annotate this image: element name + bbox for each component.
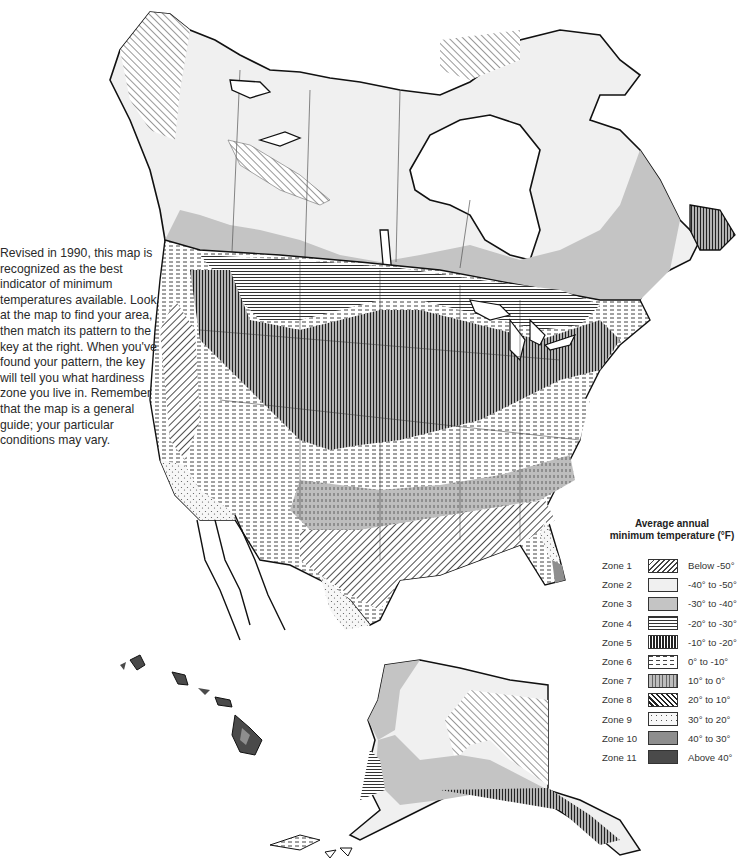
legend-row: Zone 4-20° to -30°: [602, 614, 742, 633]
zone-5-swatch: [648, 635, 678, 649]
zone-10-swatch: [648, 731, 678, 745]
legend-row: Zone 2-40° to -50°: [602, 575, 742, 594]
legend: Average annual minimum temperature (°F) …: [602, 518, 742, 767]
zone-3-swatch: [648, 597, 678, 611]
zone-8-swatch: [648, 693, 678, 707]
zone-9-swatch: [648, 712, 678, 726]
zone-2-swatch: [648, 578, 678, 592]
zone-1-swatch: [648, 559, 678, 573]
zone-7-swatch: [648, 674, 678, 688]
zone-4-swatch: [648, 616, 678, 630]
legend-row: Zone 60° to -10°: [602, 652, 742, 671]
legend-row: Zone 710° to 0°: [602, 671, 742, 690]
zone-6-swatch: [648, 655, 678, 669]
alaska-region: [270, 660, 640, 858]
legend-row: Zone 3-30° to -40°: [602, 594, 742, 613]
legend-title: Average annual minimum temperature (°F): [602, 518, 742, 542]
legend-row: Zone 1040° to 30°: [602, 729, 742, 748]
legend-row: Zone 11Above 40°: [602, 748, 742, 767]
zone-11-swatch: [648, 750, 678, 764]
legend-row: Zone 820° to 10°: [602, 690, 742, 709]
legend-row: Zone 5-10° to -20°: [602, 633, 742, 652]
legend-row: Zone 930° to 20°: [602, 710, 742, 729]
intro-paragraph: Revised in 1990, this map is recognized …: [0, 246, 160, 449]
hawaii-region: [120, 655, 262, 755]
legend-rows: Zone 1Below -50° Zone 2-40° to -50° Zone…: [602, 556, 742, 767]
legend-row: Zone 1Below -50°: [602, 556, 742, 575]
usa-region: [150, 240, 650, 630]
